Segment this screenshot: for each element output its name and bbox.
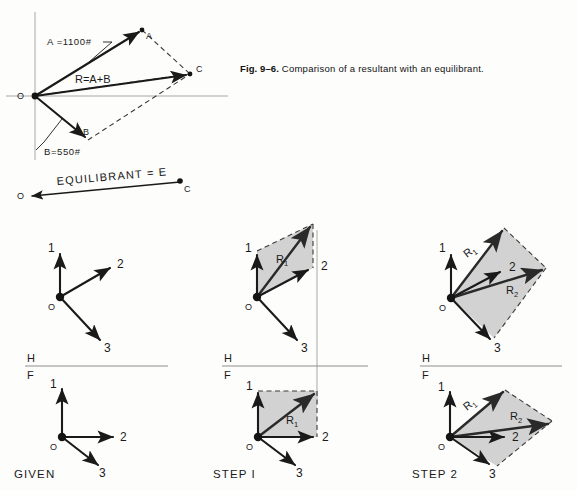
step2-front-label-3: 3 — [489, 467, 496, 481]
point-C-label: C — [196, 64, 203, 74]
vector-R-label: R=A+B — [75, 73, 110, 85]
step1-top-label-3: 3 — [301, 341, 308, 355]
step2-f-label: F — [422, 369, 429, 381]
step1-front-vector-3 — [258, 437, 295, 465]
panel-given: 1 2 3 O H F 1 2 3 O — [25, 241, 168, 480]
vector-B — [35, 96, 85, 137]
step1-front-origin-label: O — [246, 442, 253, 452]
given-top-label-1: 1 — [48, 241, 55, 255]
step1-top-vector-3 — [257, 297, 297, 340]
origin-dot-top-diagram — [32, 93, 39, 100]
step2-h-label: H — [422, 352, 430, 364]
step2-top-label-2: 2 — [509, 260, 516, 274]
step1-front-label-2: 2 — [322, 430, 329, 444]
step1-front-label-1: 1 — [246, 379, 253, 393]
given-top-label-2: 2 — [117, 257, 124, 271]
step2-top-origin-dot — [447, 294, 455, 302]
point-A-dot — [140, 28, 145, 33]
given-top-vector-3 — [60, 297, 100, 340]
step1-top-origin-dot — [253, 293, 261, 301]
vector-R — [35, 75, 186, 96]
step1-top-label-1: 1 — [245, 241, 252, 255]
given-front-label-2: 2 — [120, 430, 127, 444]
given-h-label: H — [27, 352, 35, 364]
given-top-label-3: 3 — [104, 341, 111, 355]
step2-front-label-1: 1 — [438, 380, 445, 394]
step1-f-label: F — [224, 369, 231, 381]
top-diagram-axes — [6, 12, 228, 160]
figure-caption: Fig. 9–6. Comparison of a resultant with… — [240, 63, 570, 75]
figure-number: Fig. 9–6. — [240, 63, 279, 74]
vector-B-magnitude-label: B=550# — [44, 146, 81, 157]
point-O-label-top: O — [17, 91, 24, 101]
point-B-label: B — [83, 127, 89, 137]
step1-top-origin-label: O — [245, 302, 252, 312]
panel-label-given: GIVEN — [14, 468, 55, 480]
step1-front-label-3: 3 — [296, 466, 303, 480]
given-front-label-1: 1 — [50, 377, 57, 391]
equilibrant-point-O-label: O — [17, 191, 24, 201]
given-front-label-3: 3 — [99, 466, 106, 480]
figure-page: O A B C A =1100# B=550# R=A+B O C EQUILI… — [0, 0, 577, 491]
panel-label-step-1: STEP I — [213, 468, 256, 480]
step2-top-origin-label: O — [439, 303, 446, 313]
point-A-label: A — [146, 31, 152, 41]
step2-top-label-3: 3 — [494, 341, 501, 355]
panel-step-2: 1 2 3 O R1 R2 H F 1 2 — [420, 228, 562, 481]
step2-front-origin-label: O — [438, 442, 445, 452]
vector-A-magnitude-label: A =1100# — [47, 36, 92, 47]
step1-h-label: H — [224, 352, 232, 364]
point-C-dot — [188, 72, 193, 77]
equilibrant-point-C-label: C — [184, 184, 191, 194]
given-top-origin-label: O — [48, 302, 55, 312]
given-front-vector-3 — [62, 437, 98, 465]
given-top-origin-dot — [56, 293, 64, 301]
panel-step-1: 1 2 3 O R1 H F 1 2 3 O R1 — [222, 224, 368, 480]
step1-top-label-2: 2 — [321, 259, 328, 273]
step2-top-resultant-R1-label: R1 — [461, 243, 480, 262]
given-front-origin-label: O — [50, 442, 57, 452]
given-top-vector-2 — [60, 268, 110, 297]
step1-front-origin-dot — [254, 433, 262, 441]
equilibrant-label: EQUILIBRANT = E — [56, 165, 168, 187]
panel-label-step-2: STEP 2 — [412, 468, 458, 480]
figure-caption-text: Comparison of a resultant with an equili… — [282, 63, 484, 74]
given-front-origin-dot — [58, 433, 66, 441]
step2-top-label-1: 1 — [439, 241, 446, 255]
given-f-label: F — [27, 369, 34, 381]
step2-front-label-2: 2 — [512, 430, 519, 444]
equilibrant-point-C-dot — [177, 178, 183, 184]
step2-front-origin-dot — [446, 433, 454, 441]
step2-front-resultant-R1-label: R1 — [461, 396, 480, 415]
